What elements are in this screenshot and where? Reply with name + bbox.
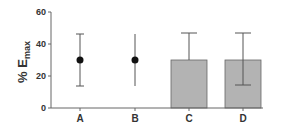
y-axis: 60 40 20 0 [36, 7, 51, 113]
x-axis: A B C D [51, 108, 263, 124]
y-tick-20: 20 [36, 71, 46, 81]
y-tick-60: 60 [36, 7, 46, 17]
x-label-c: C [185, 113, 192, 124]
y-tick-40: 40 [36, 39, 46, 49]
point-a [76, 34, 84, 86]
bar-c [171, 60, 207, 108]
x-label-a: A [76, 113, 83, 124]
x-label-d: D [239, 113, 246, 124]
x-label-b: B [131, 113, 138, 124]
y-tick-0: 0 [41, 103, 46, 113]
chart: % Emax 60 40 20 0 A B C D [0, 0, 284, 133]
error-bar-c [181, 33, 197, 60]
point-b [132, 34, 139, 86]
y-axis-label: % Emax [15, 41, 32, 83]
